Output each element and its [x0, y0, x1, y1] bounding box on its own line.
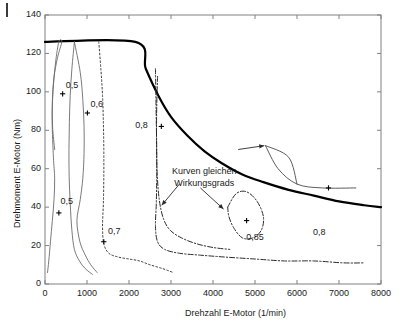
series-eta-0.6-inner	[74, 42, 97, 273]
contour-label-eta-07: 0,7	[108, 226, 121, 236]
contour-label-eta-05-upper: 0,5	[66, 80, 79, 90]
series-eta-0.5-inner	[48, 40, 62, 273]
annotation-line-1: Kurven gleichen	[172, 166, 237, 176]
y-tick-140: 140	[16, 9, 41, 19]
y-tick-100: 100	[16, 86, 41, 96]
axis-ticks	[45, 15, 381, 284]
x-axis-title: Drehzahl E-Motor (1/min)	[185, 308, 286, 318]
marker-eta-07	[101, 239, 106, 244]
y-tick-20: 20	[16, 240, 41, 250]
arrowhead-arrow-to-leader-right	[259, 144, 264, 148]
x-tick-3000: 3000	[159, 288, 183, 298]
marker-eta-08-right	[326, 185, 331, 190]
marker-eta-08-left	[159, 124, 164, 129]
contour-label-eta-08-left: 0,8	[135, 120, 148, 130]
efficiency-curves-annotation: Kurven gleichen Wirkungsgrads	[172, 165, 237, 189]
marker-eta-06	[85, 110, 90, 115]
chart-canvas	[0, 0, 408, 324]
chart-figure: 010002000300040005000600070008000 020406…	[0, 0, 408, 324]
contour-label-eta-08-right: 0,8	[313, 227, 326, 237]
series-leader-upper-right	[266, 146, 356, 189]
x-tick-7000: 7000	[327, 288, 351, 298]
x-tick-4000: 4000	[201, 288, 225, 298]
contour-label-eta-05-lower: 0,5	[60, 196, 73, 206]
series-eta-0.7-dotted	[99, 42, 173, 273]
x-tick-0: 0	[33, 288, 57, 298]
series-eta-0.8-upper-arc	[156, 76, 229, 249]
contour-label-eta-085: 0,85	[246, 232, 264, 242]
y-axis-title: Drehmoment E-Motor (Nm)	[12, 119, 22, 228]
contour-label-eta-06: 0,6	[90, 99, 103, 109]
y-tick-0: 0	[16, 278, 41, 288]
x-tick-6000: 6000	[285, 288, 309, 298]
annotation-line-2: Wirkungsgrads	[174, 178, 234, 188]
y-tick-120: 120	[16, 47, 41, 57]
data-series	[45, 40, 381, 275]
x-tick-5000: 5000	[243, 288, 267, 298]
axes-frame	[45, 15, 381, 284]
series-leader-upper-right-branch	[266, 146, 298, 184]
x-tick-8000: 8000	[369, 288, 393, 298]
marker-eta-05-lower	[56, 210, 61, 215]
marker-eta-05-upper	[60, 91, 65, 96]
x-tick-1000: 1000	[75, 288, 99, 298]
marker-eta-085	[244, 218, 249, 223]
x-tick-2000: 2000	[117, 288, 141, 298]
